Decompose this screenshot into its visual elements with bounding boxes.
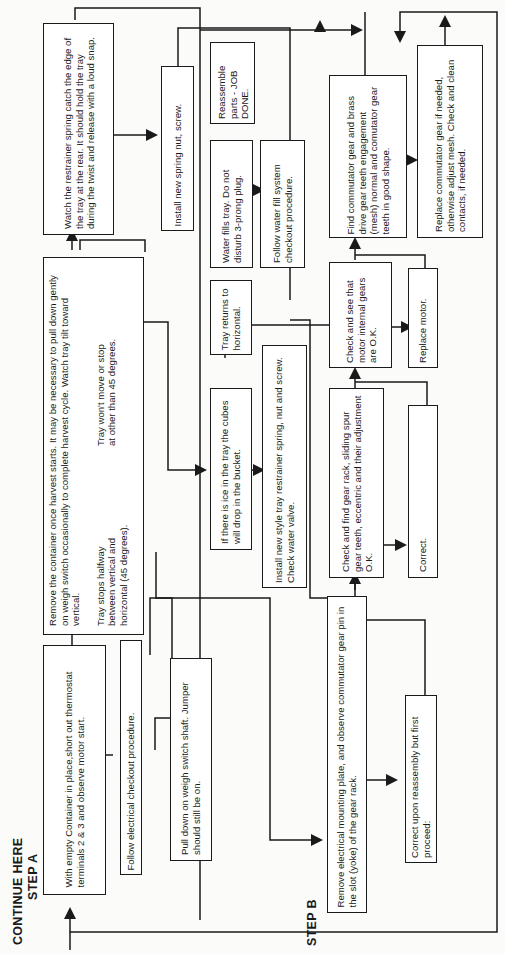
tray-wont-move-text: Tray won't move or stop at other than 45… (94, 336, 129, 446)
flowchart-canvas: CONTINUE HERE STEP A STEP B With empty C… (0, 0, 505, 955)
remove-container-group: Remove the container once harvest starts… (46, 266, 141, 626)
replace-motor-box: Replace motor. (408, 268, 438, 368)
check-motor-gears-box: Check and see that motor internal gears … (329, 262, 392, 368)
check-gear-rack-text: Check and find gear rack, sliding spur g… (339, 394, 374, 572)
step-a-heading: STEP A (27, 854, 40, 900)
ice-in-tray-text: If there is ice in the tray the cubes wi… (219, 394, 242, 544)
reassemble-box: Reassemble parts - JOB DONE. (210, 42, 255, 124)
install-spring-nut-text: Install new spring nut, screw. (172, 71, 184, 226)
replace-motor-text: Replace motor. (417, 273, 429, 363)
water-fills-text: Water fills tray. Do not disturb 3-prong… (220, 145, 243, 263)
tray-returns-box: Tray returns to horizontal. (210, 280, 252, 355)
check-gear-rack-box: Check and find gear rack, sliding spur g… (329, 388, 384, 578)
step-a-start-text: With empty Container in place,short out … (63, 653, 86, 888)
continue-here-heading: CONTINUE HERE (12, 838, 25, 945)
remove-container-text: Remove the container once harvest starts… (46, 266, 81, 626)
water-fills-box: Water fills tray. Do not disturb 3-prong… (210, 140, 253, 268)
correct-box: Correct. (408, 405, 438, 578)
tray-returns-text: Tray returns to horizontal. (219, 285, 242, 350)
pull-down-box: Pull down on weigh switch shaft. Jumper … (170, 658, 212, 861)
water-fill-checkout-text: Follow water fill system checkout proced… (271, 145, 294, 263)
correct-upon-reassembly-box: Correct upon reassembly but first procee… (405, 695, 437, 863)
ice-in-tray-box: If there is ice in the tray the cubes wi… (210, 388, 252, 550)
install-restrainer-box: Install new style tray restrainer spring… (262, 345, 307, 588)
replace-commutator-text: Replace commutator gear if needed, other… (433, 52, 468, 232)
step-b-heading: STEP B (306, 899, 319, 946)
branch-outcomes: Tray stops halfway between vertical and … (94, 266, 129, 626)
step-b-start-text: Remove electrical mounting plate, and ob… (335, 602, 358, 907)
find-commutator-box: Find commutator gear and brass drive gea… (329, 75, 407, 238)
water-fill-checkout-box: Follow water fill system checkout proced… (260, 140, 305, 268)
step-a-start-box: With empty Container in place,short out … (43, 645, 106, 895)
tray-halfway-text: Tray stops halfway between vertical and … (94, 516, 129, 626)
step-b-start-box: Remove electrical mounting plate, and ob… (327, 596, 367, 913)
check-motor-gears-text: Check and see that motor internal gears … (343, 267, 378, 363)
electrical-checkout-box: Follow electrical checkout procedure. (120, 640, 142, 875)
correct-upon-reassembly-text: Correct upon reassembly but first procee… (409, 700, 432, 858)
replace-commutator-box: Replace commutator gear if needed, other… (417, 45, 483, 238)
correct-text: Correct. (417, 412, 429, 572)
watch-spring-box: Watch the restrainer spring catch the ed… (43, 23, 114, 235)
pull-down-text: Pull down on weigh switch shaft. Jumper … (179, 665, 202, 855)
find-commutator-text: Find commutator gear and brass drive gea… (345, 79, 391, 234)
remove-container-box: Remove the container once harvest starts… (43, 257, 144, 635)
install-restrainer-text: Install new style tray restrainer spring… (273, 351, 296, 583)
install-spring-nut-box: Install new spring nut, screw. (161, 66, 194, 231)
reassemble-text: Reassemble parts - JOB DONE. (215, 47, 250, 119)
watch-spring-text: Watch the restrainer spring catch the ed… (61, 29, 96, 229)
electrical-checkout-text: Follow electrical checkout procedure. (125, 645, 137, 870)
